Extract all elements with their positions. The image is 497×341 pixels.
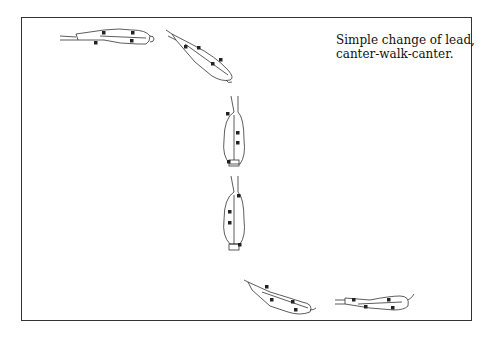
horse-walk-1: [224, 96, 245, 166]
horse-walk-2: [224, 176, 245, 250]
horse-diagram: [0, 0, 497, 341]
horse-canter-start: [60, 29, 154, 45]
horse-turning: [166, 30, 232, 83]
horse-canter-end: [335, 294, 414, 310]
horse-turning-2: [244, 280, 316, 314]
